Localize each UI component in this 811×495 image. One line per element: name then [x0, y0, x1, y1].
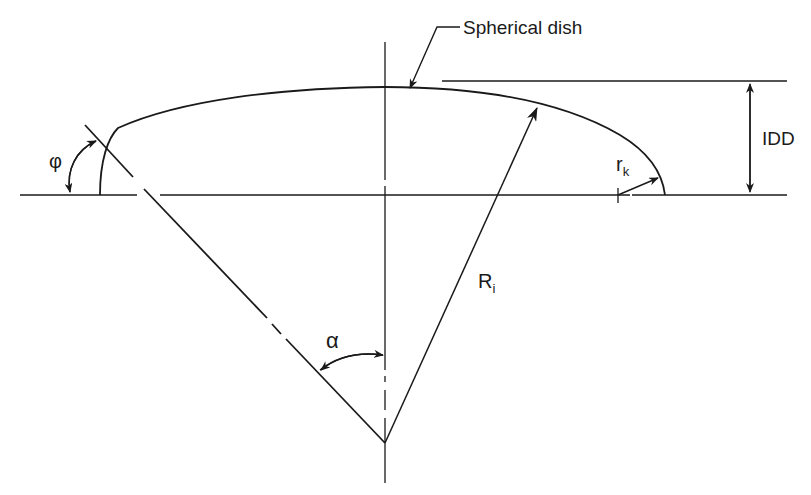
dish-head-diagram: Spherical dish IDD Ri rk φ α	[0, 0, 811, 495]
alpha-angle-arc	[320, 354, 383, 370]
crown-radius-arrow	[385, 108, 537, 443]
idd-label: IDD	[762, 128, 795, 149]
crown-radius-subscript: i	[492, 281, 495, 296]
phi-angle-arc-down	[69, 141, 96, 192]
crown-radius-symbol: R	[478, 270, 492, 292]
alpha-label: α	[326, 328, 339, 353]
knuckle-radius-label: rk	[616, 153, 630, 179]
spherical-dish-label: Spherical dish	[463, 17, 582, 38]
dish-profile	[100, 87, 665, 195]
alpha-radius-line	[85, 125, 385, 443]
crown-radius-label: Ri	[478, 270, 495, 296]
phi-angle-arc	[69, 141, 96, 192]
alpha-angle-arc-left	[321, 354, 383, 370]
knuckle-radius-arrow	[618, 178, 658, 195]
spherical-dish-leader	[410, 27, 460, 88]
phi-label: φ	[49, 150, 62, 172]
knuckle-radius-subscript: k	[623, 164, 630, 179]
